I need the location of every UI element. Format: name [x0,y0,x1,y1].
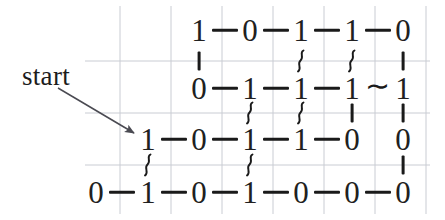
grid-digit: 1 [293,15,309,46]
grid-digit: 1 [191,15,207,46]
grid-digit: 0 [242,15,258,46]
horizontal-bond [212,191,238,194]
grid-digit: 1 [242,124,258,155]
horizontal-bond [161,138,187,141]
binary-grid-figure: start 1011001111∼1011000101000 [0,0,445,220]
horizontal-bond [212,87,238,90]
start-label: start [22,61,70,92]
vertical-bond [198,52,201,71]
horizontal-bond [263,87,289,90]
horizontal-bond [365,29,391,32]
start-arrow [0,0,445,220]
horizontal-bond [263,191,289,194]
grid-digit: 1 [344,73,360,104]
grid-digit: 0 [395,15,411,46]
grid-digit: 0 [191,177,207,208]
vertical-squiggle-bond [293,101,309,125]
horizontal-bond [212,138,238,141]
horizontal-bond [314,87,340,90]
grid-digit: 0 [191,124,207,155]
horizontal-bond [263,138,289,141]
horizontal-bond [314,29,340,32]
horizontal-bond [161,191,187,194]
grid-digit: 0 [191,73,207,104]
grid-digit: 0 [293,177,309,208]
vertical-bond [402,104,405,123]
horizontal-bond [314,138,340,141]
grid-digit: 1 [140,124,156,155]
grid-digit: 1 [242,177,258,208]
vertical-bond [402,52,405,71]
horizontal-bond [263,29,289,32]
grid-digit: 1 [395,73,411,104]
grid-digit: 1 [242,73,258,104]
vertical-squiggle-bond [140,153,156,177]
vertical-bond [402,156,405,175]
grid-digit: 1 [293,124,309,155]
grid-digit: 1 [344,15,360,46]
vertical-squiggle-bond [344,49,360,73]
vertical-squiggle-bond [242,153,258,177]
horizontal-bond [212,29,238,32]
grid-digit: 0 [88,177,104,208]
horizontal-bond [314,191,340,194]
vertical-bond [351,104,354,123]
horizontal-squiggle-bond: ∼ [365,71,390,101]
grid-digit: 0 [344,177,360,208]
grid-digit: 0 [395,177,411,208]
grid-digit: 0 [344,124,360,155]
grid-digit: 1 [140,177,156,208]
horizontal-bond [365,191,391,194]
horizontal-bond [109,191,135,194]
vertical-squiggle-bond [293,49,309,73]
grid-digit: 0 [395,124,411,155]
grid-digit: 1 [293,73,309,104]
vertical-squiggle-bond [242,101,258,125]
